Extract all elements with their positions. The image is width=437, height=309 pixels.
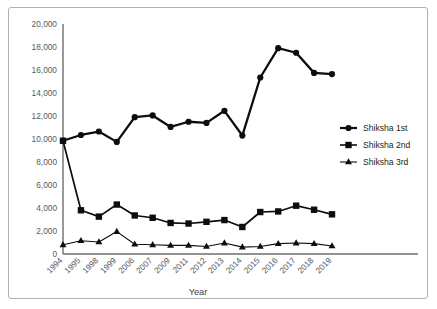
x-axis-tick-label: 2012 (188, 255, 208, 275)
series-3 (60, 228, 336, 250)
data-point-marker (311, 240, 318, 246)
x-axis-tick-label: 1995 (62, 255, 82, 275)
legend-item-1[interactable]: Shiksha 1st (340, 123, 408, 133)
data-point-marker (329, 71, 335, 77)
data-point-marker (185, 119, 191, 125)
chart-canvas: 02,0004,0006,0008,00010,00012,00014,0001… (0, 0, 437, 309)
data-point-marker (293, 50, 299, 56)
data-point-marker (311, 207, 317, 213)
y-axis-tick-label: 6,000 (36, 180, 57, 190)
y-axis-tick-label: 10,000 (32, 134, 58, 144)
y-axis-tick-label: 4,000 (36, 203, 57, 213)
x-axis-tick-label: 2019 (313, 255, 333, 275)
x-axis-tick-label: 2006 (116, 255, 136, 275)
y-axis-tick-label: 18,000 (32, 42, 58, 52)
data-point-marker (275, 240, 282, 246)
data-point-marker (257, 209, 263, 215)
data-point-marker (293, 239, 300, 245)
data-point-marker (150, 112, 156, 118)
data-point-marker (132, 212, 138, 218)
x-axis-tick-label: 1998 (80, 255, 100, 275)
legend-marker-icon (345, 125, 351, 131)
data-point-marker (185, 242, 192, 248)
data-point-marker (96, 213, 102, 219)
x-axis-tick-label: 2013 (206, 255, 226, 275)
data-point-marker (293, 203, 299, 209)
data-point-marker (60, 138, 66, 144)
data-point-marker (221, 239, 228, 245)
chart-legend: Shiksha 1stShiksha 2ndShiksha 3rd (340, 123, 411, 167)
data-point-marker (311, 70, 317, 76)
data-point-marker (203, 219, 209, 225)
data-point-marker (149, 215, 155, 221)
legend-item-3[interactable]: Shiksha 3rd (340, 157, 409, 167)
data-point-marker (114, 201, 120, 207)
x-axis-tick-label: 2014 (224, 255, 244, 275)
x-axis-tick-label: 2016 (259, 255, 279, 275)
series-1 (60, 45, 335, 145)
x-axis-tick-label: 2009 (152, 255, 172, 275)
line-chart: 02,0004,0006,0008,00010,00012,00014,0001… (0, 0, 437, 309)
data-point-marker (221, 217, 227, 223)
legend-item-2[interactable]: Shiksha 2nd (340, 140, 411, 150)
y-axis-tick-label: 2,000 (36, 226, 57, 236)
legend-label: Shiksha 2nd (363, 140, 411, 150)
series-line (63, 48, 332, 142)
y-axis-tick-labels: 02,0004,0006,0008,00010,00012,00014,0001… (32, 19, 58, 259)
data-point-marker (77, 237, 84, 243)
data-point-marker (113, 228, 120, 234)
y-axis-tick-label: 20,000 (32, 19, 58, 29)
data-point-marker (239, 132, 245, 138)
data-point-marker (168, 124, 174, 130)
data-point-marker (275, 45, 281, 51)
legend-label: Shiksha 3rd (363, 157, 409, 167)
data-point-marker (329, 211, 335, 217)
y-axis-tick-label: 14,000 (32, 88, 58, 98)
data-point-marker (149, 241, 156, 247)
y-axis-tick-label: 16,000 (32, 65, 58, 75)
x-axis-tick-label: 2017 (277, 255, 297, 275)
legend-marker-icon (345, 142, 351, 148)
series-layer (60, 45, 336, 249)
series-line (63, 141, 332, 227)
data-point-marker (114, 139, 120, 145)
y-axis-tick-label: 12,000 (32, 111, 58, 121)
data-point-marker (167, 242, 174, 248)
data-point-marker (275, 208, 281, 214)
data-point-marker (203, 120, 209, 126)
data-point-marker (78, 207, 84, 213)
y-axis-tick-label: 8,000 (36, 157, 57, 167)
series-line (63, 232, 332, 248)
data-point-marker (239, 224, 245, 230)
x-axis-tick-label: 2015 (242, 255, 262, 275)
x-axis-tick-label: 2018 (295, 255, 315, 275)
data-point-marker (257, 74, 263, 80)
x-axis-title: Year (189, 287, 208, 297)
legend-label: Shiksha 1st (363, 123, 408, 133)
data-point-marker (221, 108, 227, 114)
data-point-marker (96, 128, 102, 134)
data-point-marker (167, 220, 173, 226)
legend-marker-icon (345, 158, 352, 164)
series-2 (60, 138, 335, 231)
data-point-marker (132, 114, 138, 120)
x-axis-tick-labels: 1994199519981999200620072009201120122013… (44, 255, 333, 275)
x-axis-tick-label: 2011 (170, 255, 190, 275)
data-point-marker (78, 132, 84, 138)
data-point-marker (131, 240, 138, 246)
x-axis-tick-label: 1994 (44, 255, 64, 275)
x-axis-tick-label: 2007 (134, 255, 154, 275)
data-point-marker (185, 220, 191, 226)
x-axis-tick-label: 1999 (98, 255, 118, 275)
